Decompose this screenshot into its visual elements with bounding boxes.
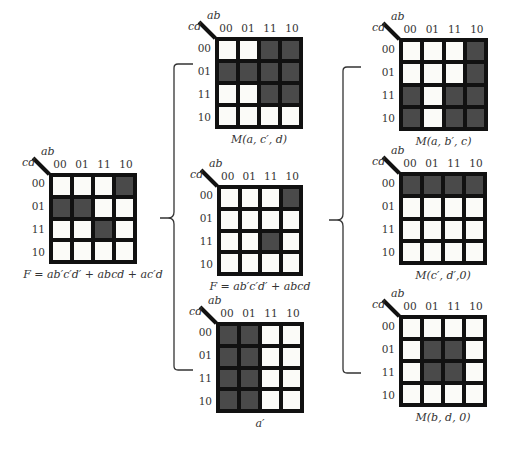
left-brace: [0, 0, 513, 450]
